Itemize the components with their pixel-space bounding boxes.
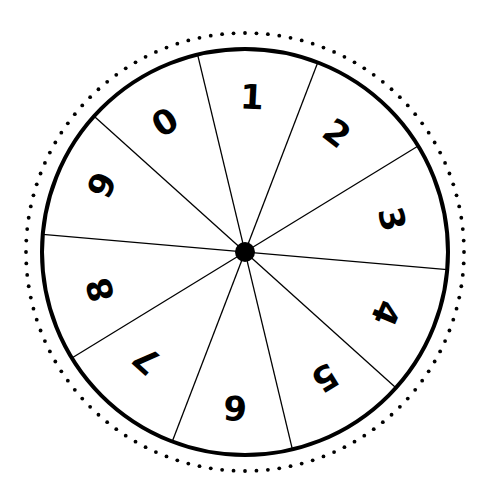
ring-dot — [255, 469, 259, 473]
ring-dot — [433, 360, 437, 364]
ring-dot — [154, 450, 158, 454]
ring-dot — [35, 182, 39, 186]
ring-dot — [381, 420, 385, 424]
ring-dot — [438, 151, 442, 155]
segment-label-1: 1 — [239, 76, 265, 117]
ring-dot — [32, 307, 36, 311]
ring-dot — [362, 66, 366, 70]
ring-dot — [154, 50, 158, 54]
ring-dot — [277, 466, 281, 470]
ring-dot — [24, 239, 28, 243]
ring-dot — [438, 350, 442, 354]
ring-dot — [165, 455, 169, 459]
spinner-wheel[interactable]: 0 1 2 3 4 5 6 7 8 9 — [0, 0, 490, 500]
ring-dot — [398, 95, 402, 99]
ring-dot — [398, 405, 402, 409]
ring-dot — [59, 369, 63, 373]
ring-dot — [413, 112, 417, 116]
ring-dot — [165, 46, 169, 50]
ring-dot — [220, 32, 224, 36]
ring-dot — [343, 445, 347, 449]
ring-dot — [175, 458, 179, 462]
ring-dot — [144, 445, 148, 449]
ring-dot — [209, 466, 213, 470]
ring-dot — [29, 296, 33, 300]
ring-dot — [300, 39, 304, 43]
ring-dot — [451, 182, 455, 186]
ring-dot — [29, 205, 33, 209]
ring-dot — [362, 434, 366, 438]
ring-dot — [427, 131, 431, 135]
ring-dot — [462, 239, 466, 243]
ring-dot — [443, 161, 447, 165]
ring-dot — [43, 161, 47, 165]
ring-dot — [24, 250, 28, 254]
ring-dot — [277, 34, 281, 38]
ring-dot — [66, 379, 70, 383]
ring-dot — [332, 50, 336, 54]
ring-dot — [406, 104, 410, 108]
ring-dot — [300, 462, 304, 466]
ring-dot — [25, 273, 29, 277]
ring-dot — [209, 34, 213, 38]
ring-dot — [53, 141, 57, 145]
ring-dot — [461, 227, 465, 231]
ring-dot — [186, 39, 190, 43]
ring-dot — [43, 339, 47, 343]
ring-dot — [198, 464, 202, 468]
ring-dot — [27, 284, 31, 288]
ring-dot — [255, 31, 259, 35]
ring-dot — [80, 104, 84, 108]
ring-dot — [372, 427, 376, 431]
ring-dot — [105, 80, 109, 84]
ring-dot — [420, 379, 424, 383]
ring-dot — [420, 121, 424, 125]
ring-dot — [175, 42, 179, 46]
ring-dot — [390, 87, 394, 91]
ring-dot — [134, 60, 138, 64]
ring-dot — [124, 66, 128, 70]
ring-dot — [232, 31, 236, 35]
ring-dot — [427, 369, 431, 373]
ring-dot — [80, 397, 84, 401]
ring-dot — [455, 193, 459, 197]
ring-dot — [457, 205, 461, 209]
ring-dot — [353, 440, 357, 444]
ring-dot — [66, 121, 70, 125]
ring-dot — [322, 46, 326, 50]
ring-dot — [88, 95, 92, 99]
ring-dot — [88, 405, 92, 409]
ring-dot — [144, 55, 148, 59]
ring-dot — [311, 42, 315, 46]
ring-dot — [322, 455, 326, 459]
ring-dot — [59, 131, 63, 135]
ring-dot — [381, 80, 385, 84]
ring-dot — [220, 468, 224, 472]
ring-dot — [134, 440, 138, 444]
ring-dot — [97, 87, 101, 91]
ring-dot — [32, 193, 36, 197]
ring-dot — [459, 216, 463, 220]
ring-dot — [461, 273, 465, 277]
ring-dot — [48, 151, 52, 155]
ring-dot — [448, 172, 452, 176]
ring-dot — [24, 262, 28, 266]
ring-dot — [97, 413, 101, 417]
ring-dot — [35, 318, 39, 322]
ring-dot — [48, 350, 52, 354]
ring-dot — [289, 36, 293, 40]
ring-dot — [413, 388, 417, 392]
ring-dot — [114, 427, 118, 431]
ring-dot — [406, 397, 410, 401]
ring-dot — [266, 468, 270, 472]
ring-dot — [232, 469, 236, 473]
center-hub[interactable] — [235, 242, 255, 262]
ring-dot — [124, 434, 128, 438]
ring-dot — [332, 450, 336, 454]
ring-dot — [105, 420, 109, 424]
ring-dot — [451, 318, 455, 322]
ring-dot — [186, 462, 190, 466]
ring-dot — [372, 73, 376, 77]
ring-dot — [343, 55, 347, 59]
ring-dot — [53, 360, 57, 364]
